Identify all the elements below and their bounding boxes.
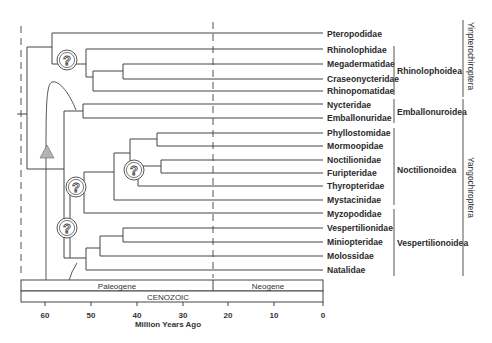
taxon-label: Megadermatidae <box>327 59 395 69</box>
period-label-neogene: Neogene <box>252 282 285 291</box>
svg-text:?: ? <box>72 180 80 195</box>
tick-label: 50 <box>87 311 96 320</box>
taxon-label: Miniopteridae <box>327 237 383 247</box>
uncertain-node-icon: ? <box>124 160 144 180</box>
taxon-label: Natalidae <box>327 265 365 275</box>
era-label-cenozoic: CENOZOIC <box>147 293 189 302</box>
phylogeny-figure: ? ? ? ? Pteropodidae Rhinolophidae Megad… <box>0 0 492 343</box>
tick-label: 0 <box>321 311 326 320</box>
taxon-label: Nycteridae <box>327 100 371 110</box>
period-label-paleogene: Paleogene <box>98 282 137 291</box>
tick-label: 40 <box>133 311 142 320</box>
taxon-label: Emballonuridae <box>327 113 392 123</box>
taxon-label: Craseonycteridae <box>327 74 399 84</box>
uncertain-node-icon: ? <box>66 177 86 197</box>
suborder-label-yinpterochiroptera: Yinpterochiroptera <box>466 22 476 90</box>
taxon-label: Thyropteridae <box>327 181 385 191</box>
taxon-label: Myzopodidae <box>327 209 382 219</box>
taxon-labels: Pteropodidae Rhinolophidae Megadermatida… <box>327 29 399 275</box>
tick-label: 10 <box>270 311 279 320</box>
axis-title: Million Years Ago <box>135 320 201 329</box>
axis-tick-labels: 60 50 40 30 20 10 0 <box>41 311 326 320</box>
axis-ticks <box>45 302 323 306</box>
taxon-label: Mormoopidae <box>327 141 384 151</box>
svg-text:?: ? <box>63 53 71 68</box>
taxon-label: Noctilionidae <box>327 155 381 165</box>
tick-label: 30 <box>179 311 188 320</box>
taxon-label: Furipteridae <box>327 168 377 178</box>
svg-text:?: ? <box>130 163 138 178</box>
tick-label: 20 <box>224 311 233 320</box>
taxon-label: Phyllostomidae <box>327 128 391 138</box>
taxon-label: Rhinopomatidae <box>327 86 395 96</box>
superfamily-label-vespertilionoidea: Vespertilionoidea <box>397 238 468 248</box>
triangle-marker-icon <box>40 145 54 158</box>
taxon-label: Rhinolophidae <box>327 45 387 55</box>
suborder-label-yangochiroptera: Yangochiroptera <box>466 157 476 218</box>
superfamily-label-emballonuroidea: Emballonuroidea <box>397 107 467 117</box>
uncertain-node-icon: ? <box>57 218 77 238</box>
taxon-label: Molossidae <box>327 251 374 261</box>
superfamily-label-noctilionoidea: Noctilionoidea <box>397 165 456 175</box>
geologic-timescale: Paleogene Neogene CENOZOIC <box>21 280 323 302</box>
tick-label: 60 <box>41 311 50 320</box>
taxon-label: Mystacinidae <box>327 195 381 205</box>
taxon-label: Vespertilionidae <box>327 223 393 233</box>
svg-text:?: ? <box>63 221 71 236</box>
uncertain-node-icon: ? <box>57 50 77 70</box>
taxon-label: Pteropodidae <box>327 29 382 39</box>
superfamily-label-rhinolophoidea: Rhinolophoidea <box>397 66 462 76</box>
